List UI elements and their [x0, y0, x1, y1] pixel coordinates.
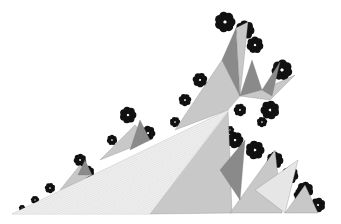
fringe-blob	[254, 46, 261, 53]
fringe-blob	[186, 97, 191, 102]
fringe-blob	[246, 27, 254, 35]
fringe-blob	[261, 117, 266, 122]
fringe-blob	[224, 13, 233, 22]
fringe-blob	[235, 104, 240, 109]
fringe-blob	[78, 154, 83, 159]
fringe-blob	[50, 187, 55, 192]
fringe-blob	[123, 116, 130, 123]
fringe-blob	[107, 136, 112, 141]
fringe-blob	[250, 141, 258, 149]
fringe-blob	[198, 73, 204, 79]
fractal-illustration	[0, 0, 341, 224]
fringe-blob	[261, 106, 269, 114]
